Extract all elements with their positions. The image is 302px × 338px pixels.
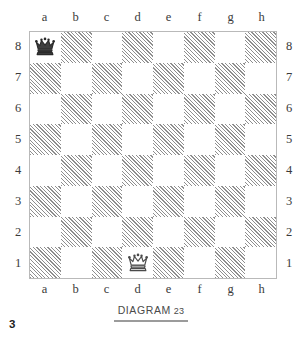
board-square-c3[interactable] — [92, 186, 123, 217]
file-label-bottom-g: g — [215, 281, 246, 297]
caption-underline-rule — [114, 320, 188, 322]
page-number: 3 — [9, 318, 15, 330]
board-square-f2[interactable] — [184, 217, 215, 248]
diagram-page: abcdefgh 87654321 87654321 abcdefgh DIAG… — [0, 0, 302, 338]
board-square-c7[interactable] — [92, 63, 123, 94]
board-square-f1[interactable] — [184, 247, 215, 278]
board-square-g1[interactable] — [215, 247, 246, 278]
file-label-top-d: d — [122, 9, 153, 25]
board-square-f8[interactable] — [184, 32, 215, 63]
board-square-h2[interactable] — [245, 217, 276, 248]
board-square-h1[interactable] — [245, 247, 276, 278]
board-square-a2[interactable] — [30, 217, 61, 248]
board-square-b2[interactable] — [61, 217, 92, 248]
white-queen-icon — [125, 250, 151, 276]
file-label-top-g: g — [215, 9, 246, 25]
rank-label-left-2: 2 — [9, 217, 27, 248]
board-square-f6[interactable] — [184, 94, 215, 125]
board-square-f4[interactable] — [184, 155, 215, 186]
board-square-c1[interactable] — [92, 247, 123, 278]
board-square-a7[interactable] — [30, 63, 61, 94]
file-label-top-a: a — [29, 9, 60, 25]
file-label-top-c: c — [91, 9, 122, 25]
board-square-b8[interactable] — [61, 32, 92, 63]
rank-label-right-5: 5 — [280, 124, 298, 155]
rank-label-left-4: 4 — [9, 155, 27, 186]
board-square-b1[interactable] — [61, 247, 92, 278]
diagram-caption-wrap: DIAGRAM 23 — [0, 300, 302, 322]
board-square-d1[interactable] — [122, 247, 153, 278]
board-square-g5[interactable] — [215, 124, 246, 155]
board-square-g7[interactable] — [215, 63, 246, 94]
black-queen-icon — [32, 34, 58, 60]
board-square-a8[interactable] — [30, 32, 61, 63]
board-square-b7[interactable] — [61, 63, 92, 94]
board-square-e1[interactable] — [153, 247, 184, 278]
board-square-e3[interactable] — [153, 186, 184, 217]
board-square-a5[interactable] — [30, 124, 61, 155]
board-square-h7[interactable] — [245, 63, 276, 94]
rank-label-left-7: 7 — [9, 62, 27, 93]
board-square-a1[interactable] — [30, 247, 61, 278]
board-square-a3[interactable] — [30, 186, 61, 217]
board-square-g4[interactable] — [215, 155, 246, 186]
board-square-h5[interactable] — [245, 124, 276, 155]
file-label-bottom-b: b — [60, 281, 91, 297]
board-square-c5[interactable] — [92, 124, 123, 155]
board-square-e2[interactable] — [153, 217, 184, 248]
board-square-h6[interactable] — [245, 94, 276, 125]
chessboard[interactable] — [29, 31, 277, 279]
board-square-b5[interactable] — [61, 124, 92, 155]
board-square-f7[interactable] — [184, 63, 215, 94]
file-labels-top: abcdefgh — [29, 9, 277, 25]
diagram-caption: DIAGRAM 23 — [118, 304, 185, 318]
rank-label-left-1: 1 — [9, 248, 27, 279]
board-square-a4[interactable] — [30, 155, 61, 186]
board-square-e4[interactable] — [153, 155, 184, 186]
board-square-b6[interactable] — [61, 94, 92, 125]
rank-label-left-3: 3 — [9, 186, 27, 217]
rank-label-right-7: 7 — [280, 62, 298, 93]
diagram-caption-number: 23 — [171, 306, 184, 316]
rank-label-left-6: 6 — [9, 93, 27, 124]
board-square-d6[interactable] — [122, 94, 153, 125]
rank-label-right-1: 1 — [280, 248, 298, 279]
board-square-d2[interactable] — [122, 217, 153, 248]
board-square-d5[interactable] — [122, 124, 153, 155]
board-square-f3[interactable] — [184, 186, 215, 217]
board-square-c4[interactable] — [92, 155, 123, 186]
rank-labels-left: 87654321 — [9, 31, 27, 279]
board-square-d3[interactable] — [122, 186, 153, 217]
board-square-e8[interactable] — [153, 32, 184, 63]
board-square-c8[interactable] — [92, 32, 123, 63]
rank-label-left-8: 8 — [9, 31, 27, 62]
file-label-bottom-a: a — [29, 281, 60, 297]
diagram-caption-text: DIAGRAM — [118, 304, 171, 316]
board-square-a6[interactable] — [30, 94, 61, 125]
rank-label-right-4: 4 — [280, 155, 298, 186]
board-square-d7[interactable] — [122, 63, 153, 94]
rank-label-right-6: 6 — [280, 93, 298, 124]
rank-labels-right: 87654321 — [280, 31, 298, 279]
board-square-d4[interactable] — [122, 155, 153, 186]
board-square-e6[interactable] — [153, 94, 184, 125]
board-square-f5[interactable] — [184, 124, 215, 155]
board-square-g2[interactable] — [215, 217, 246, 248]
board-square-h8[interactable] — [245, 32, 276, 63]
board-square-d8[interactable] — [122, 32, 153, 63]
board-square-b4[interactable] — [61, 155, 92, 186]
board-square-g6[interactable] — [215, 94, 246, 125]
board-square-g3[interactable] — [215, 186, 246, 217]
board-square-c2[interactable] — [92, 217, 123, 248]
file-label-bottom-f: f — [184, 281, 215, 297]
file-label-bottom-h: h — [246, 281, 277, 297]
board-square-b3[interactable] — [61, 186, 92, 217]
board-square-e7[interactable] — [153, 63, 184, 94]
rank-label-right-3: 3 — [280, 186, 298, 217]
board-square-h3[interactable] — [245, 186, 276, 217]
board-square-h4[interactable] — [245, 155, 276, 186]
board-square-e5[interactable] — [153, 124, 184, 155]
file-label-top-b: b — [60, 9, 91, 25]
board-square-g8[interactable] — [215, 32, 246, 63]
board-square-c6[interactable] — [92, 94, 123, 125]
